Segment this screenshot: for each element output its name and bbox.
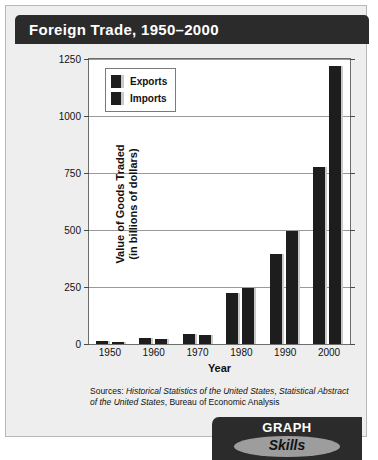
x-axis-title: Year: [88, 362, 351, 374]
legend-item-imports: Imports: [111, 90, 167, 107]
bar-group: [226, 59, 256, 344]
sources-italic-1: Historical Statistics of the United Stat…: [126, 386, 274, 396]
bar-group: [313, 59, 343, 344]
bar-exports-1990: [270, 254, 284, 344]
y-axis-tick-label: 1250: [59, 54, 81, 65]
x-axis-tick-label: 1970: [178, 347, 218, 363]
legend-swatch-icon: [111, 92, 124, 105]
bar-exports-1970: [183, 334, 197, 344]
badge-bottom-label: Skills: [212, 437, 362, 453]
bar-imports-1990: [286, 231, 300, 344]
x-axis-tick-label: 1960: [134, 347, 174, 363]
bar-imports-2000: [329, 66, 343, 344]
bar-exports-1980: [226, 293, 240, 344]
y-axis-tick: [84, 344, 89, 345]
y-axis-title-line2: (in billions of dollars): [127, 148, 139, 259]
y-axis-tick: [350, 344, 355, 345]
bar-exports-2000: [313, 167, 327, 344]
sources-note: Sources: Historical Statistics of the Un…: [90, 386, 352, 408]
sources-suffix: , Bureau of Economic Analysis: [165, 397, 280, 407]
y-axis-title: Value of Goods Traded (in billions of do…: [114, 104, 140, 304]
graph-skills-badge: GRAPH Skills: [212, 417, 362, 460]
x-axis-tick-label: 1950: [90, 347, 130, 363]
x-axis-tick-label: 2000: [309, 347, 349, 363]
y-axis-tick: [350, 59, 355, 60]
y-axis-tick-label: 500: [64, 225, 81, 236]
x-axis-tick-labels: 195019601970198019902000: [88, 347, 351, 363]
bar-exports-1960: [139, 338, 153, 344]
chart-card: Foreign Trade, 1950–2000 025050075010001…: [5, 5, 367, 437]
bar-imports-1970: [199, 335, 213, 344]
bar-group: [270, 59, 300, 344]
title-bar: Foreign Trade, 1950–2000: [15, 15, 369, 44]
page-root: Foreign Trade, 1950–2000 025050075010001…: [0, 0, 378, 460]
y-axis-tick-label: 0: [75, 339, 81, 350]
legend-item-exports: Exports: [111, 73, 167, 90]
y-axis-tick-label: 750: [64, 168, 81, 179]
y-axis-tick: [350, 287, 355, 288]
chart-legend: Exports Imports: [105, 68, 176, 112]
bar-imports-1980: [242, 288, 256, 344]
page-title: Foreign Trade, 1950–2000: [29, 21, 219, 38]
bar-group: [183, 59, 213, 344]
legend-label-exports: Exports: [130, 76, 167, 87]
x-axis-tick-label: 1990: [265, 347, 305, 363]
y-axis-tick: [350, 173, 355, 174]
bar-imports-1960: [155, 339, 169, 344]
y-axis-title-line1: Value of Goods Traded: [114, 144, 126, 263]
bar-exports-1950: [96, 341, 110, 344]
y-axis-tick: [350, 230, 355, 231]
x-axis-tick-label: 1980: [221, 347, 261, 363]
legend-swatch-icon: [111, 75, 124, 88]
y-axis-tick: [350, 116, 355, 117]
legend-label-imports: Imports: [130, 93, 167, 104]
sources-prefix: Sources:: [90, 386, 126, 396]
bar-imports-1950: [112, 342, 126, 344]
y-axis-tick-label: 1000: [59, 111, 81, 122]
badge-top-label: GRAPH: [212, 420, 362, 435]
y-axis-tick-label: 250: [64, 282, 81, 293]
